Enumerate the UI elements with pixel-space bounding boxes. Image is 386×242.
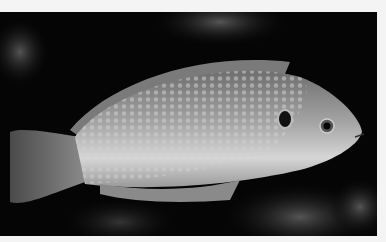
gill-spot xyxy=(278,110,292,128)
fish-illustration xyxy=(0,12,377,236)
fish-pupil xyxy=(324,123,331,130)
fish-photo xyxy=(0,12,377,236)
